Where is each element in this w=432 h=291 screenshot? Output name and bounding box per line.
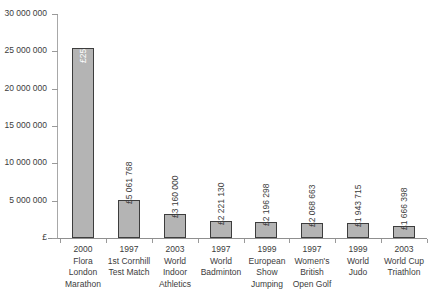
category-label-line: British — [289, 267, 335, 279]
category-label-line: Women's — [289, 256, 335, 268]
category-label-line: 1997 — [289, 244, 335, 256]
x-axis-category-label: 2000FloraLondonMarathon — [60, 244, 106, 290]
category-label-line: 1997 — [106, 244, 152, 256]
bar-value-label: £2 068 663 — [308, 184, 317, 227]
y-axis-tick — [52, 201, 58, 202]
category-label-line: Show — [244, 267, 290, 279]
y-axis-tick — [52, 51, 58, 52]
x-axis-category-label: 1997WorldBadminton — [198, 244, 244, 279]
category-label-line: 1999 — [244, 244, 290, 256]
bar-value-label: £2 221 130 — [217, 183, 226, 226]
chart-title — [0, 0, 432, 2]
x-axis-line — [48, 238, 427, 239]
category-label-line: 2003 — [152, 244, 198, 256]
bar-chart: 30 000 00025 000 00020 000 00015 000 000… — [0, 0, 432, 291]
category-label-line: London — [60, 267, 106, 279]
category-label-line: 2000 — [60, 244, 106, 256]
category-label-line: World — [198, 256, 244, 268]
x-axis-tick — [244, 239, 245, 243]
x-axis-category-label: 2003WorldIndoorAthletics — [152, 244, 198, 290]
bar-value-label: £1 666 398 — [400, 187, 409, 230]
x-axis-category-label: 2003World CupTriathlon — [381, 244, 427, 279]
y-axis-tick — [52, 14, 58, 15]
x-axis-tick — [198, 239, 199, 243]
x-axis-tick — [289, 239, 290, 243]
category-label-line: Badminton — [198, 267, 244, 279]
x-axis-tick — [152, 239, 153, 243]
x-axis-tick — [60, 239, 61, 243]
bar — [72, 48, 94, 238]
category-label-line: Flora — [60, 256, 106, 268]
y-axis-tick-label: £ — [42, 233, 47, 242]
category-label-line: Triathlon — [381, 267, 427, 279]
x-axis-category-label: 1999EuropeanShowJumping — [244, 244, 290, 290]
x-axis-category-label: 1999WorldJudo — [335, 244, 381, 279]
category-label-line: 2003 — [381, 244, 427, 256]
x-axis-category-label: 19971st CornhillTest Match — [106, 244, 152, 279]
y-axis-tick-label: 15 000 000 — [4, 121, 47, 130]
x-axis-category-label: 1997Women'sBritishOpen Golf — [289, 244, 335, 290]
bar-value-label: £1 943 715 — [354, 185, 363, 228]
category-label-line: Jumping — [244, 279, 290, 291]
y-axis-tick-label: 30 000 000 — [4, 9, 47, 18]
bar-value-label: £5 061 768 — [125, 162, 134, 205]
category-label-line: European — [244, 256, 290, 268]
y-axis-tick-label: 25 000 000 — [4, 46, 47, 55]
bar-value-label: £3 160 000 — [171, 176, 180, 219]
category-label-line: Test Match — [106, 267, 152, 279]
bar-value-label: £25 459 187 — [79, 16, 88, 63]
category-label-line: 1st Cornhill — [106, 256, 152, 268]
bar — [118, 200, 140, 238]
category-label-line: Judo — [335, 267, 381, 279]
category-label-line: Open Golf — [289, 279, 335, 291]
y-axis-tick-label: 20 000 000 — [4, 84, 47, 93]
x-axis-tick — [335, 239, 336, 243]
x-axis-tick — [106, 239, 107, 243]
category-label-line: World — [152, 256, 198, 268]
category-label-line: 1997 — [198, 244, 244, 256]
category-label-line: 1999 — [335, 244, 381, 256]
category-label-line: World — [335, 256, 381, 268]
category-label-line: Athletics — [152, 279, 198, 291]
y-axis-tick-label: 5 000 000 — [9, 196, 47, 205]
category-label-line: World Cup — [381, 256, 427, 268]
x-axis-tick — [381, 239, 382, 243]
y-axis-tick — [52, 238, 58, 239]
y-axis-tick — [52, 126, 58, 127]
category-label-line: Marathon — [60, 279, 106, 291]
y-axis-tick — [52, 163, 58, 164]
category-label-line: Indoor — [152, 267, 198, 279]
x-axis-tick — [427, 239, 428, 243]
y-axis-tick — [52, 89, 58, 90]
bar-value-label: £2 196 298 — [262, 183, 271, 226]
y-axis-tick-label: 10 000 000 — [4, 158, 47, 167]
